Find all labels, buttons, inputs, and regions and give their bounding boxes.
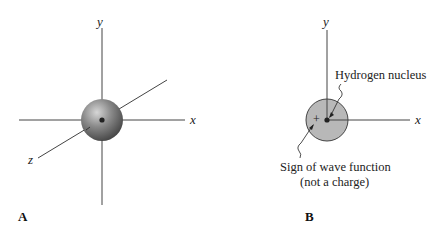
y-axis-label-b: y [323,14,329,30]
nucleus-annotation: Hydrogen nucleus [335,68,426,83]
x-axis-label-a: x [190,112,196,128]
z-axis-label-a: z [28,152,33,168]
nucleus-dot-b [324,117,329,122]
wave-sign: + [313,112,320,127]
x-axis-label-b: x [415,112,421,128]
y-axis-label-a: y [97,14,103,30]
nucleus-dot-a [99,117,104,122]
sign-annotation-line1: Sign of wave function [280,160,391,175]
sign-annotation-line2: (not a charge) [300,175,369,190]
diagram-canvas [0,0,444,226]
panel-label-a: A [18,209,27,225]
panel-label-b: B [305,209,314,225]
